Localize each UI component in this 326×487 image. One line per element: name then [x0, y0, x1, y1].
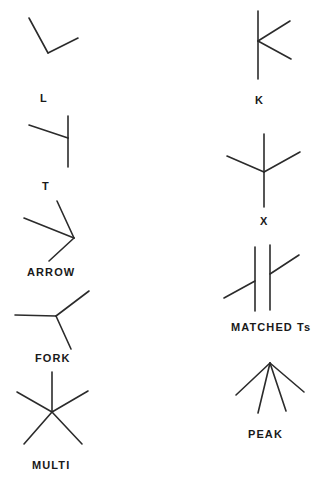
peak-junction-left-center-arm [258, 363, 270, 413]
multi-junction-label: MULTI [32, 460, 70, 471]
multi-junction-upper-right-arm [52, 391, 88, 412]
fork-junction-upper-right-arm [56, 291, 89, 316]
fork-junction-label: FORK [35, 353, 71, 364]
t-junction-label: T [42, 181, 50, 192]
t-junction-cross-left-arm [29, 125, 68, 138]
arrow-junction-lower-arm [49, 238, 74, 261]
k-junction-label: K [255, 95, 264, 106]
x-junction [227, 134, 300, 207]
x-junction-upper-right-arm [264, 152, 300, 172]
multi-junction [17, 372, 88, 444]
multi-junction-upper-left-arm [17, 392, 52, 412]
k-junction-upper-right-arm [258, 21, 290, 41]
arrow-junction [24, 201, 74, 261]
junction-taxonomy-figure: LTARROWFORKMULTIKXMATCHED TsPEAK [0, 0, 326, 487]
multi-junction-lower-right-arm [52, 412, 82, 444]
l-junction-upper-right-arm [48, 38, 78, 53]
matched-ts-junction-lower-left-segment [224, 281, 255, 298]
peak-junction [236, 363, 304, 413]
multi-junction-lower-left-arm [24, 412, 52, 444]
l-junction-label: L [40, 93, 48, 104]
fork-junction-lower-right-arm [56, 316, 71, 349]
peak-junction-label: PEAK [248, 429, 283, 440]
l-junction-upper-left-arm [29, 18, 48, 53]
fork-junction [15, 291, 89, 349]
matched-ts-junction-upper-right-segment [270, 255, 299, 274]
peak-junction-far-left-arm [236, 363, 270, 395]
matched-ts-junction [224, 245, 299, 311]
x-junction-label: X [260, 216, 268, 227]
t-junction [29, 116, 68, 167]
k-junction-lower-right-arm [258, 41, 291, 59]
l-junction [29, 18, 78, 53]
k-junction [258, 11, 291, 79]
junction-diagram-canvas [0, 0, 326, 487]
arrow-junction-label: ARROW [27, 267, 75, 278]
matched-ts-junction-label: MATCHED Ts [231, 322, 311, 333]
x-junction-upper-left-arm [227, 156, 264, 172]
fork-junction-left-arm [15, 315, 56, 316]
